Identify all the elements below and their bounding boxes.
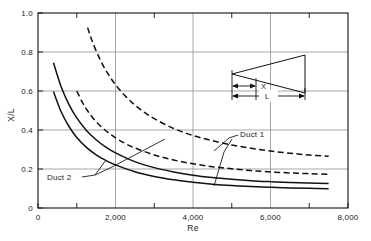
inset-l-label: L: [265, 92, 269, 101]
x-tick-label: 4,000: [182, 213, 203, 222]
x-tick-label: 0: [36, 213, 41, 222]
duct-geometry-diagram: X L: [232, 55, 305, 102]
l-dim-arrow-right: [299, 94, 305, 99]
x-tick-labels: 02,0004,0006,0008,000: [36, 213, 359, 222]
duct-1-annotation: Duct 1: [214, 130, 265, 186]
x-tick-label: 8,000: [337, 213, 358, 222]
y-tick-label: 1.0: [21, 9, 33, 18]
series-curve: [77, 91, 329, 174]
y-tick-label: 0: [28, 204, 33, 213]
y-axis-label: X/L: [6, 108, 16, 122]
figure-container: 02,0004,0006,0008,000 00.20.40.60.81.0 R…: [0, 0, 371, 241]
y-tick-label: 0.8: [21, 48, 33, 57]
x-axis-label: Re: [187, 223, 198, 233]
grid-layer: [38, 13, 348, 208]
y-tick-label: 0.6: [21, 87, 33, 96]
duct-triangle-icon: [232, 55, 305, 93]
x-dim-arrow-right: [250, 84, 256, 89]
y-tick-label: 0.4: [21, 126, 33, 135]
series-curve: [88, 28, 329, 157]
duct-2-label: Duct 2: [47, 173, 72, 182]
x-dim-arrow-left: [232, 84, 238, 89]
inset-x-label: X: [261, 82, 266, 91]
x-tick-label: 2,000: [105, 213, 126, 222]
series-curve: [54, 92, 329, 189]
x-tick-label: 6,000: [260, 213, 281, 222]
y-tick-labels: 00.20.40.60.81.0: [21, 9, 33, 213]
l-dim-arrow-left: [232, 94, 238, 99]
y-tick-label: 0.2: [21, 165, 33, 174]
duct-2-leader-a: [82, 160, 106, 177]
series-curve: [54, 63, 329, 184]
chart-svg: 02,0004,0006,0008,000 00.20.40.60.81.0 R…: [0, 0, 371, 241]
duct-1-label: Duct 1: [240, 130, 265, 139]
